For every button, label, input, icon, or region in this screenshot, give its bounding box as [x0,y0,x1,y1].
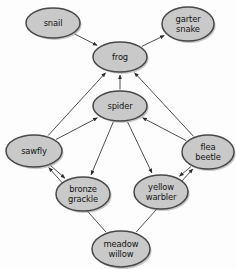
edge-sawfly-to-spider [56,118,97,140]
node-label-frog: frog [112,52,128,62]
node-label-sawfly: sawfly [21,146,47,156]
node-garter_snake[interactable]: gartersnake [162,7,216,43]
node-snail[interactable]: snail [26,8,82,40]
node-label-meadow_willow: meadowwillow [104,239,139,258]
node-label-spider: spider [107,101,133,111]
food-web-diagram: snailgartersnakefrogspidersawflyfleabeet… [0,0,236,269]
food-web-canvas: snailgartersnakefrogspidersawflyfleabeet… [0,0,236,269]
node-label-bronze_grackle: bronzegrackle [68,184,98,203]
edge-snail-to-frog [74,34,97,46]
node-sawfly[interactable]: sawfly [6,135,64,169]
node-yellow_warbler[interactable]: yellowwarbler [134,175,190,211]
edge-frog-to-garter_snake [142,36,164,47]
nodes-layer: snailgartersnakefrogspidersawflyfleabeet… [6,7,236,269]
node-spider[interactable]: spider [93,91,149,123]
node-label-snail: snail [44,18,63,28]
edge-spider-to-bronze_grackle [91,122,113,175]
node-meadow_willow[interactable]: meadowwillow [92,231,152,269]
node-bronze_grackle[interactable]: bronzegrackle [56,177,112,213]
node-flea_beetle[interactable]: fleabeetle [182,135,236,171]
edge-flea_beetle-to-yellow_warbler [180,167,191,177]
node-frog[interactable]: frog [93,42,149,74]
edge-spider-to-yellow_warbler [128,122,152,173]
node-label-garter_snake: gartersnake [176,14,202,33]
node-label-yellow_warbler: yellowwarbler [146,182,177,201]
